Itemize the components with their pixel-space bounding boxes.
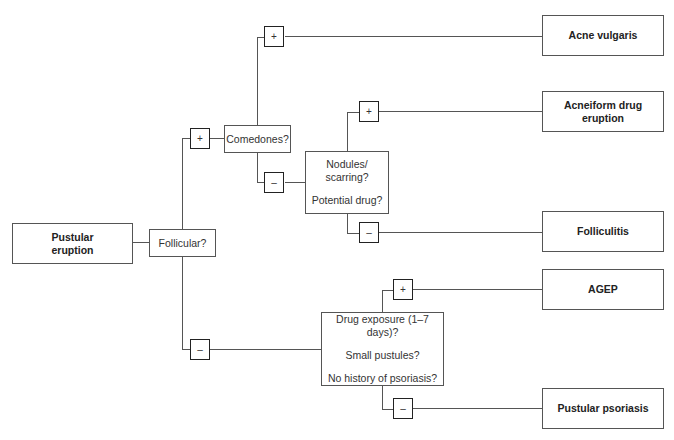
connector [382, 290, 383, 312]
question-drug-line2: Small pustules? [345, 349, 419, 362]
start-label-line2: eruption [52, 244, 94, 257]
connector [257, 152, 258, 182]
question-drug-line1: Drug exposure (1–7 days)? [322, 313, 443, 339]
connector [210, 349, 321, 350]
outcome-acneiform-line1: Acneiform drug [564, 99, 642, 112]
connector [347, 112, 348, 151]
connector [412, 289, 542, 290]
connector [285, 182, 305, 183]
minus-icon: – [271, 177, 277, 188]
outcome-acneiform-drug-eruption: Acneiform drug eruption [542, 91, 664, 132]
connector [382, 290, 393, 291]
connector [257, 37, 264, 38]
outcome-pustular-psoriasis-label: Pustular psoriasis [557, 402, 648, 415]
question-nodules-line2: scarring? [325, 171, 368, 184]
connector [382, 385, 383, 409]
question-follicular-label: Follicular? [159, 237, 207, 250]
question-follicular: Follicular? [149, 229, 216, 257]
outcome-folliculitis: Folliculitis [542, 211, 664, 252]
plus-icon: + [366, 106, 372, 117]
question-comedones-label: Comedones? [226, 133, 288, 146]
question-drug-exposure: Drug exposure (1–7 days)? Small pustules… [321, 312, 444, 386]
outcome-folliculitis-label: Folliculitis [577, 225, 629, 238]
minus-branch-comedones: – [264, 172, 284, 193]
connector [257, 182, 264, 183]
connector [182, 138, 183, 229]
plus-branch-follicular: + [190, 128, 210, 149]
question-comedones: Comedones? [224, 125, 291, 153]
connector [382, 409, 393, 410]
connector [378, 232, 542, 233]
connector [378, 111, 542, 112]
plus-icon: + [197, 133, 203, 144]
start-label-line1: Pustular [51, 231, 93, 244]
minus-icon: – [400, 403, 406, 414]
connector [347, 233, 359, 234]
connector [347, 112, 359, 113]
question-nodules-drug: Nodules/ scarring? Potential drug? [305, 151, 389, 214]
outcome-agep: AGEP [542, 269, 664, 310]
question-nodules-line1: Nodules/ [326, 158, 367, 171]
start-node-pustular-eruption: Pustular eruption [12, 223, 133, 264]
plus-branch-drug: + [393, 279, 413, 300]
outcome-acne-vulgaris-label: Acne vulgaris [569, 29, 638, 42]
plus-branch-comedones: + [264, 26, 284, 47]
question-nodules-line3: Potential drug? [312, 194, 383, 207]
outcome-acneiform-line2: eruption [582, 112, 624, 125]
question-drug-line3: No history of psoriasis? [328, 372, 437, 385]
minus-branch-drug: – [393, 398, 413, 419]
outcome-agep-label: AGEP [588, 283, 618, 296]
connector [182, 256, 183, 350]
connector [132, 242, 149, 243]
connector [182, 138, 190, 139]
plus-branch-nodules: + [359, 101, 379, 122]
minus-branch-follicular: – [190, 339, 210, 360]
minus-branch-nodules: – [359, 222, 379, 243]
plus-icon: + [400, 284, 406, 295]
connector [210, 138, 224, 139]
outcome-acne-vulgaris: Acne vulgaris [542, 15, 664, 56]
outcome-pustular-psoriasis: Pustular psoriasis [542, 388, 664, 429]
connector [412, 408, 542, 409]
connector [257, 37, 258, 125]
plus-icon: + [271, 31, 277, 42]
minus-icon: – [197, 344, 203, 355]
connector [285, 36, 542, 37]
connector [347, 213, 348, 233]
connector [182, 349, 190, 350]
minus-icon: – [366, 227, 372, 238]
